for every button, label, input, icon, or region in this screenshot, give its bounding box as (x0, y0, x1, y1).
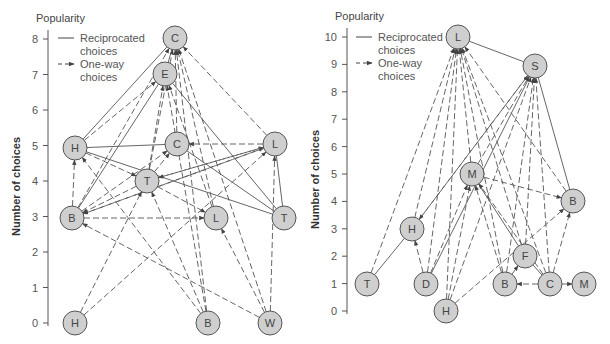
oneway-edge (183, 47, 267, 136)
y-tick-label: 3 (32, 211, 38, 223)
node-label: B (204, 317, 211, 329)
y-tick-label: 7 (331, 113, 337, 125)
node-t: T (135, 169, 159, 193)
oneway-edge (428, 49, 457, 272)
node-label: L (455, 31, 461, 43)
node-label: L (272, 138, 278, 150)
y-tick-label: 10 (325, 31, 337, 43)
node-label: L (213, 212, 219, 224)
node-label: B (68, 212, 75, 224)
oneway-edge (536, 78, 549, 272)
oneway-edge (149, 86, 163, 169)
node-e: E (153, 62, 177, 86)
legend-reciprocated-label: Reciprocated (378, 31, 443, 43)
node-label: W (265, 317, 276, 329)
node-label: M (467, 168, 476, 180)
node-l: L (263, 132, 287, 156)
legend-oneway-label: One-way (378, 57, 423, 69)
oneway-edge (270, 156, 274, 311)
node-b: B (60, 206, 84, 230)
oneway-edge (462, 48, 546, 273)
node-h: H (63, 311, 87, 335)
node-c: C (163, 26, 187, 50)
oneway-edge (553, 213, 570, 273)
node-b: B (493, 272, 517, 296)
node-t: T (355, 272, 379, 296)
oneway-edge (415, 49, 455, 218)
oneway-edge (84, 152, 266, 315)
node-label: B (501, 278, 508, 290)
node-label: M (579, 278, 588, 290)
right-sociogram: 012345678910PopularityNumber of choicesR… (309, 10, 596, 323)
node-label: F (522, 250, 529, 262)
oneway-edge (415, 241, 423, 273)
oneway-edge (460, 49, 503, 272)
node-label: C (173, 138, 181, 150)
node-label: D (422, 278, 430, 290)
y-tick-label: 1 (32, 282, 38, 294)
y-axis-label: Number of choices (309, 130, 321, 229)
node-l: L (204, 206, 228, 230)
y-axis-label: Number of choices (10, 137, 22, 236)
reciprocated-edge (168, 50, 172, 63)
y-tick-label: 6 (32, 104, 38, 116)
node-label: E (161, 68, 168, 80)
y-tick-label: 1 (331, 278, 337, 290)
node-w: W (258, 311, 282, 335)
y-tick-label: 5 (32, 140, 38, 152)
oneway-edge (80, 192, 141, 313)
node-c: C (165, 132, 189, 156)
legend-oneway-label: choices (378, 70, 416, 82)
node-label: H (71, 142, 79, 154)
axis-title: Popularity (335, 10, 384, 22)
y-tick-label: 9 (331, 58, 337, 70)
node-t: T (272, 206, 296, 230)
sociogram-figure: 012345678PopularityNumber of choicesReci… (0, 0, 610, 344)
edges (73, 47, 283, 318)
node-h: H (400, 217, 424, 241)
y-tick-label: 8 (331, 86, 337, 98)
oneway-edge (155, 153, 170, 171)
node-s: S (523, 54, 547, 78)
oneway-edge (175, 50, 177, 132)
node-label: C (171, 32, 179, 44)
node-d: D (414, 272, 438, 296)
reciprocated-edge (276, 156, 282, 206)
node-h: H (434, 299, 458, 323)
node-h: H (63, 136, 87, 160)
node-label: T (364, 278, 371, 290)
y-tick-label: 2 (331, 250, 337, 262)
sociogram-canvas: 012345678PopularityNumber of choicesReci… (0, 0, 610, 344)
y-tick-label: 0 (32, 317, 38, 329)
oneway-edge (158, 187, 206, 213)
y-tick-label: 2 (32, 246, 38, 258)
node-label: H (71, 317, 79, 329)
node-label: B (569, 195, 576, 207)
reciprocated-edge (375, 238, 405, 274)
y-tick-label: 0 (331, 305, 337, 317)
reciprocated-edge (538, 78, 569, 190)
oneway-edge (484, 177, 562, 198)
oneway-edge (83, 224, 260, 318)
oneway-edge (86, 153, 136, 176)
oneway-edge (176, 50, 206, 311)
y-tick-label: 6 (331, 141, 337, 153)
legend: ReciprocatedchoicesOne-waychoices (356, 31, 443, 82)
node-m: M (572, 272, 596, 296)
y-tick-label: 7 (32, 69, 38, 81)
node-b: B (196, 311, 220, 335)
oneway-edge (431, 185, 468, 273)
axis-title: Popularity (36, 12, 85, 24)
oneway-edge (419, 76, 528, 220)
legend-reciprocated-label: choices (378, 44, 416, 56)
node-label: C (546, 278, 554, 290)
y-tick-label: 3 (331, 223, 337, 235)
oneway-edge (526, 78, 535, 244)
node-f: F (513, 244, 537, 268)
oneway-edge (152, 192, 204, 312)
node-label: T (144, 175, 151, 187)
y-tick-label: 4 (32, 175, 38, 187)
oneway-edge (512, 266, 518, 274)
reciprocated-edge (86, 152, 272, 214)
node-label: H (442, 305, 450, 317)
